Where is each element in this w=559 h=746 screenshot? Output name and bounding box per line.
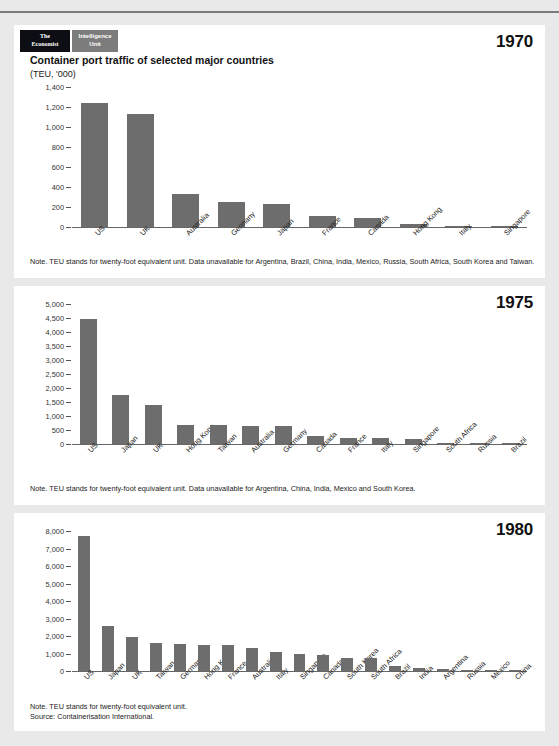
y-axis-tick (66, 374, 71, 375)
y-axis-tick-label: 500 (14, 426, 64, 435)
y-axis-tick-label: 400 (14, 183, 64, 192)
y-axis-tick-label: 1,000 (14, 412, 64, 421)
y-axis-tick (66, 619, 71, 620)
y-axis-tick-label: 3,000 (14, 614, 64, 623)
chart-note-1975: Note. TEU stands for twenty-foot equival… (30, 484, 416, 493)
y-axis-tick-label: 0 (14, 223, 64, 232)
chart-note-1970: Note. TEU stands for twenty-foot equival… (30, 257, 534, 266)
y-axis-tick (66, 430, 71, 431)
y-axis-tick-label: 600 (14, 163, 64, 172)
x-axis-category-label: South Africa (444, 420, 479, 455)
y-axis-tick (66, 127, 71, 128)
y-axis-tick (66, 187, 71, 188)
bar[interactable] (112, 395, 129, 444)
y-axis-tick (66, 318, 71, 319)
x-axis-category-label: Italy (457, 221, 473, 237)
x-axis-category-label: India (417, 664, 435, 682)
y-axis-tick-label: 6,000 (14, 562, 64, 571)
y-axis-tick-label: 2,000 (14, 384, 64, 393)
y-axis-tick (66, 671, 71, 672)
y-axis-tick (66, 87, 71, 88)
y-axis-tick-label: 200 (14, 203, 64, 212)
y-axis-tick-label: 1,200 (14, 103, 64, 112)
plot-area-1975: 5,0004,5004,0003,5003,0002,5002,0001,500… (14, 286, 545, 504)
y-axis-tick (66, 388, 71, 389)
y-axis-tick (66, 584, 71, 585)
y-axis-tick-label: 2,500 (14, 370, 64, 379)
page-root: The Economist Intelligence Unit 1970 Con… (0, 0, 559, 746)
y-axis-tick (66, 654, 71, 655)
bar[interactable] (222, 645, 234, 671)
y-axis-tick-label: 8,000 (14, 527, 64, 536)
y-axis-tick (66, 207, 71, 208)
y-axis-tick (66, 332, 71, 333)
x-axis-category-label: China (513, 661, 533, 681)
chart-panel-1970: The Economist Intelligence Unit 1970 Con… (14, 25, 545, 278)
plot-area-1980: 8,0007,0006,0005,0004,0003,0002,0001,000… (14, 513, 545, 731)
y-axis-tick (66, 346, 71, 347)
bar[interactable] (126, 637, 138, 671)
y-axis-tick-label: 5,000 (14, 579, 64, 588)
y-axis-tick (66, 416, 71, 417)
y-axis-tick-label: 1,000 (14, 649, 64, 658)
y-axis-tick-label: 2,000 (14, 632, 64, 641)
y-axis-tick-label: 1,400 (14, 83, 64, 92)
y-axis-tick-label: 5,000 (14, 300, 64, 309)
y-axis-tick-label: 4,500 (14, 314, 64, 323)
y-axis-tick (66, 549, 71, 550)
y-axis-tick (66, 402, 71, 403)
bar[interactable] (127, 114, 154, 227)
bar[interactable] (174, 644, 186, 671)
y-axis-tick (66, 167, 71, 168)
y-axis-tick (66, 360, 71, 361)
y-axis-tick-label: 0 (14, 667, 64, 676)
bar[interactable] (80, 319, 97, 444)
bar[interactable] (78, 536, 90, 671)
bar[interactable] (145, 405, 162, 444)
plot-area-1970: 1,4001,2001,0008006004002000USUKAustrali… (14, 25, 545, 287)
y-axis-tick (66, 107, 71, 108)
y-axis-tick-label: 4,000 (14, 328, 64, 337)
x-axis-category-label: Singapore (502, 207, 532, 237)
chart-note-1980-line1: Note. TEU stands for twenty-foot equival… (30, 702, 187, 711)
x-axis-category-label: Hong Kong (411, 205, 444, 238)
y-axis-tick-label: 800 (14, 143, 64, 152)
x-axis-category-label: Argentina (441, 653, 470, 682)
y-axis-tick-label: 0 (14, 440, 64, 449)
bar[interactable] (198, 645, 210, 671)
bar[interactable] (81, 103, 108, 227)
y-axis-tick-label: 3,500 (14, 342, 64, 351)
y-axis-tick-label: 7,000 (14, 544, 64, 553)
chart-panel-1980: 1980 8,0007,0006,0005,0004,0003,0002,000… (14, 513, 545, 731)
bar[interactable] (150, 643, 162, 671)
y-axis-tick (66, 601, 71, 602)
y-axis-tick (66, 227, 71, 228)
y-axis-tick (66, 304, 71, 305)
bar[interactable] (102, 626, 114, 672)
y-axis-tick (66, 147, 71, 148)
y-axis-tick-label: 1,500 (14, 398, 64, 407)
y-axis-tick (66, 531, 71, 532)
y-axis-tick-label: 3,000 (14, 356, 64, 365)
y-axis-tick (66, 636, 71, 637)
top-divider (0, 11, 559, 13)
chart-panel-1975: 1975 5,0004,5004,0003,5003,0002,5002,000… (14, 286, 545, 505)
y-axis-tick-label: 1,000 (14, 123, 64, 132)
y-axis-tick (66, 566, 71, 567)
y-axis-tick-label: 4,000 (14, 597, 64, 606)
y-axis-tick (66, 444, 71, 445)
chart-source-1980: Source: Containerisation International. (30, 712, 154, 721)
